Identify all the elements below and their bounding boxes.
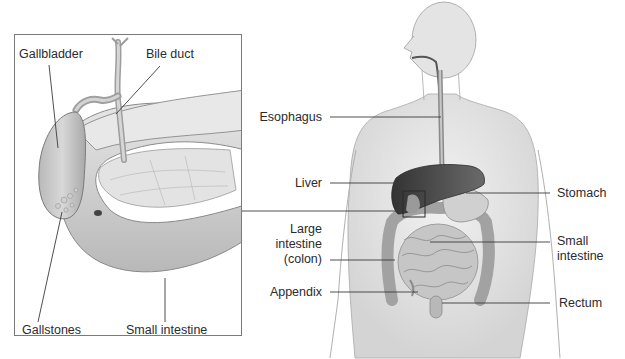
label-appendix: Appendix — [250, 285, 322, 300]
label-small-intestine-line1: Small — [557, 234, 604, 249]
label-bile-duct: Bile duct — [146, 47, 194, 62]
label-large-intestine-line3: (colon) — [250, 252, 322, 267]
label-esophagus: Esophagus — [250, 110, 322, 125]
label-liver: Liver — [250, 176, 322, 191]
torso-illustration — [330, 2, 560, 358]
label-large-intestine: Large intestine (colon) — [250, 222, 322, 267]
label-large-intestine-line2: intestine — [250, 237, 322, 252]
inset-illustration — [39, 38, 245, 272]
label-small-intestine-inset: Small intestine — [126, 323, 207, 338]
label-rectum: Rectum — [559, 296, 602, 311]
label-small-intestine: Small intestine — [557, 234, 604, 264]
label-gallstones: Gallstones — [22, 323, 81, 338]
label-stomach: Stomach — [557, 186, 606, 201]
label-small-intestine-line2: intestine — [557, 249, 604, 264]
label-gallbladder: Gallbladder — [19, 47, 83, 62]
label-large-intestine-line1: Large — [250, 222, 322, 237]
